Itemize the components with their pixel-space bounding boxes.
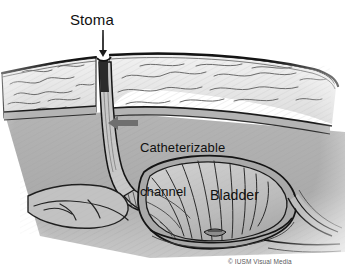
illustration-canvas: Stoma Catheterizable channel Bladder © I… (0, 0, 345, 274)
label-bladder: Bladder (210, 188, 259, 204)
label-stoma: Stoma (70, 12, 114, 29)
label-catheterizable-channel: Catheterizable channel (140, 112, 225, 228)
label-catheterizable-channel-line1: Catheterizable (140, 141, 225, 156)
copyright-credit: © IUSM Visual Media (228, 258, 292, 265)
